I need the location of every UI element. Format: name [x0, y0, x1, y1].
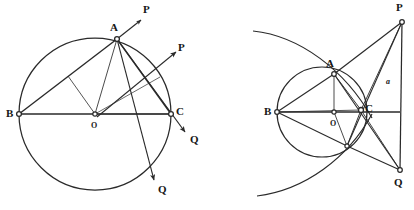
right-label-p: P	[396, 2, 403, 13]
left-label-o: O	[91, 120, 97, 131]
right-label-q: Q	[394, 177, 403, 188]
left-node-o	[93, 112, 97, 116]
right-node-b	[275, 110, 280, 115]
right-chord-ac	[334, 74, 361, 110]
right-node-o	[332, 110, 336, 114]
left-label-a: A	[110, 22, 118, 33]
right-label-a: A	[326, 58, 334, 69]
left-label-q1: Q	[190, 134, 199, 145]
left-label-p2: P	[178, 42, 185, 53]
left-node-a	[115, 37, 120, 42]
right-line-c-to-p	[361, 22, 402, 110]
right-node-p	[400, 20, 405, 25]
left-node-c	[169, 112, 174, 117]
right-figure-group	[253, 20, 404, 196]
left-label-p1: P	[143, 4, 150, 15]
left-node-b	[17, 112, 22, 117]
left-ray-o-to-p2	[97, 52, 176, 117]
right-label-o: O	[330, 118, 336, 129]
right-label-side-a: a	[386, 76, 390, 87]
left-label-b: B	[6, 108, 13, 119]
right-node-a	[332, 72, 337, 77]
right-node-c	[359, 108, 364, 113]
left-perp-o-to-ba	[68, 76, 95, 114]
left-figure-group	[17, 20, 185, 190]
left-label-c: C	[176, 106, 184, 117]
left-helper-o-ac	[95, 77, 160, 114]
right-segment-pq	[400, 22, 402, 170]
right-line-a-to-p	[334, 22, 402, 74]
diagram-svg	[0, 0, 414, 210]
diagram-canvas: A B C O P P Q Q A B C O P Q a	[0, 0, 414, 210]
right-chord-ba	[277, 74, 334, 112]
right-label-c: C	[365, 103, 373, 114]
right-node-q	[398, 168, 403, 173]
right-node-d	[345, 144, 349, 148]
left-label-q2: Q	[158, 184, 167, 195]
left-ray-a-to-p1	[117, 20, 141, 39]
right-label-b: B	[264, 106, 271, 117]
